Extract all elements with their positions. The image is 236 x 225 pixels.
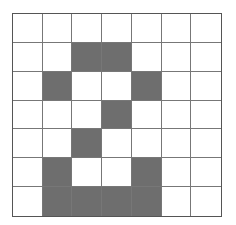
grid-cell-empty — [72, 14, 102, 43]
grid-cell-empty — [191, 187, 221, 216]
grid-cell-filled — [72, 129, 102, 158]
grid-cell-empty — [191, 14, 221, 43]
grid-cell-empty — [162, 129, 192, 158]
grid-cell-empty — [72, 101, 102, 130]
grid-cell-filled — [102, 101, 132, 130]
grid-cell-filled — [72, 43, 102, 72]
grid-cell-empty — [162, 43, 192, 72]
grid-cell-empty — [132, 129, 162, 158]
grid-cell-empty — [191, 101, 221, 130]
grid-cell-empty — [102, 158, 132, 187]
grid-cell-empty — [132, 14, 162, 43]
grid-cell-empty — [191, 129, 221, 158]
grid-cell-empty — [13, 14, 43, 43]
grid-cell-filled — [102, 43, 132, 72]
grid-cell-empty — [102, 72, 132, 101]
grid-cell-empty — [13, 129, 43, 158]
grid-cell-filled — [132, 72, 162, 101]
grid-cell-filled — [43, 72, 73, 101]
grid-cell-empty — [43, 129, 73, 158]
grid-cell-empty — [132, 101, 162, 130]
grid-cell-empty — [72, 72, 102, 101]
grid-cell-empty — [162, 72, 192, 101]
grid-cell-empty — [43, 101, 73, 130]
grid-cell-empty — [191, 43, 221, 72]
grid-cell-empty — [43, 43, 73, 72]
grid-cell-filled — [43, 187, 73, 216]
grid-cell-empty — [13, 187, 43, 216]
grid-cell-empty — [13, 101, 43, 130]
grid-cell-empty — [162, 187, 192, 216]
grid-cell-empty — [102, 129, 132, 158]
grid-cell-empty — [13, 158, 43, 187]
grid-cell-filled — [132, 187, 162, 216]
grid-cell-filled — [132, 158, 162, 187]
grid-cell-empty — [102, 14, 132, 43]
grid-cell-empty — [43, 14, 73, 43]
grid-cell-empty — [13, 72, 43, 101]
grid-cell-empty — [13, 43, 43, 72]
grid-cell-filled — [72, 187, 102, 216]
grid-cell-empty — [72, 158, 102, 187]
grid-cell-empty — [191, 72, 221, 101]
grid-cell-filled — [43, 158, 73, 187]
grid-cell-empty — [191, 158, 221, 187]
grid-cell-filled — [102, 187, 132, 216]
grid-cell-empty — [162, 14, 192, 43]
pixel-grid — [12, 13, 222, 217]
grid-cell-empty — [132, 43, 162, 72]
grid-cell-empty — [162, 158, 192, 187]
grid-cell-empty — [162, 101, 192, 130]
